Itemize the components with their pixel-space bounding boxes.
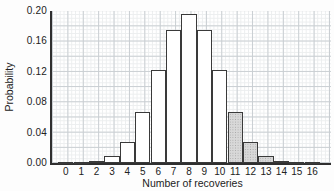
y-tick-label-0.20: 0.20 [12, 5, 47, 17]
y-tick-label-0.16: 0.16 [12, 35, 47, 47]
y-tick-label-0.04: 0.04 [12, 127, 47, 139]
histogram-bar-4 [120, 142, 135, 163]
histogram-bar-7 [166, 30, 181, 163]
probability-histogram-figure: Probability 0.000.040.080.120.160.20 012… [0, 0, 334, 191]
y-tick-label-0.12: 0.12 [12, 66, 47, 78]
plot-area [50, 11, 331, 165]
histogram-bar-1 [74, 162, 89, 164]
histogram-bar-15 [289, 162, 304, 164]
histogram-bar-5 [135, 112, 150, 163]
x-axis-title: Number of recoveries [53, 177, 332, 189]
histogram-bar-0 [58, 162, 73, 164]
histogram-bar-3 [104, 156, 119, 163]
histogram-bar-10 [212, 70, 227, 163]
histogram-bar-6 [151, 70, 166, 163]
y-tick-label-0.08: 0.08 [12, 96, 47, 108]
histogram-bar-9 [197, 30, 212, 163]
y-tick-label-0.00: 0.00 [12, 157, 47, 169]
histogram-bar-16 [305, 162, 320, 164]
histogram-bar-14 [274, 161, 289, 163]
histogram-bar-11 [228, 112, 243, 163]
histogram-bar-12 [243, 142, 258, 163]
histogram-bar-8 [181, 14, 196, 163]
histogram-bar-13 [258, 156, 273, 163]
histogram-bar-2 [89, 161, 104, 163]
